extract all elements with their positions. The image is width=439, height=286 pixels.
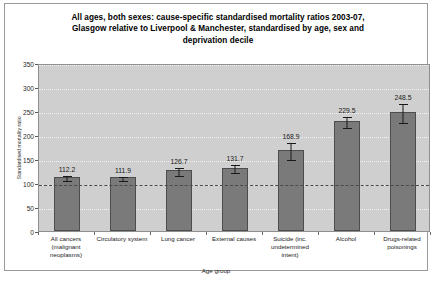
y-axis-tick-label: 100 [12, 181, 34, 188]
x-axis-category-label-line: Alcohol [318, 235, 374, 243]
x-axis-tick-mark [430, 232, 431, 235]
error-bar-cap-top [231, 165, 240, 166]
y-axis-tick-label: 200 [12, 133, 34, 140]
error-bar-cap-top [63, 176, 72, 177]
bar-group [319, 65, 375, 231]
x-axis-category-label-line: External causes [206, 235, 262, 243]
x-axis-category-label-line: Suicide (inc. [262, 235, 318, 243]
error-bar [403, 104, 404, 124]
y-axis-tick-mark [35, 136, 38, 137]
bar-group [39, 65, 95, 231]
bar[interactable] [334, 121, 360, 231]
error-bar-cap-top [343, 117, 352, 118]
x-axis-title: Age group [5, 267, 427, 274]
error-bar [235, 165, 236, 174]
x-axis-category-label: Circulatory system [94, 235, 150, 243]
error-bar-cap-bottom [287, 160, 296, 161]
error-bar [179, 168, 180, 177]
x-axis-category-label-line: undetermined intent) [262, 243, 318, 259]
error-bar-cap-bottom [343, 128, 352, 129]
x-axis-category-label-line: Circulatory system [94, 235, 150, 243]
y-axis-tick-mark [35, 184, 38, 185]
x-axis-category-label-line: (malignant [38, 243, 94, 251]
x-axis-category-label: Alcohol [318, 235, 374, 243]
y-axis-tick-mark [35, 88, 38, 89]
error-bar-cap-top [399, 104, 408, 105]
y-axis-tick-mark [35, 64, 38, 65]
x-axis-category-label-line: All cancers [38, 235, 94, 243]
error-bar-cap-bottom [175, 176, 184, 177]
reference-line-100 [39, 185, 429, 186]
error-bar-cap-top [175, 168, 184, 169]
bar-value-label: 131.7 [226, 155, 243, 162]
y-axis-tick-mark [35, 208, 38, 209]
bar-value-label: 112.2 [59, 166, 76, 173]
plot-area: 112.2111.9126.7131.7168.9229.5248.5 [38, 64, 430, 232]
y-axis-tick-mark [35, 160, 38, 161]
bar[interactable] [278, 150, 304, 231]
error-bar [291, 143, 292, 161]
y-axis-title: Standardised mortality ratio [16, 88, 22, 208]
error-bar-cap-bottom [119, 181, 128, 182]
x-axis-category-label: Drugs-relatedpoisonings [374, 235, 430, 251]
y-axis-tick-label: 250 [12, 109, 34, 116]
error-bar-cap-top [119, 177, 128, 178]
x-axis-category-label-line: poisonings [374, 243, 430, 251]
x-axis-category-label-line: Lung cancer [150, 235, 206, 243]
error-bar-cap-bottom [399, 123, 408, 124]
bar-group [207, 65, 263, 231]
bar[interactable] [166, 170, 192, 231]
error-bar-cap-top [287, 143, 296, 144]
bar-group [375, 65, 431, 231]
error-bar [67, 176, 68, 182]
bar[interactable] [222, 168, 248, 231]
x-axis-category-label-line: Drugs-related [374, 235, 430, 243]
chart-title-line-3: deprivation decile [35, 35, 401, 46]
chart-title: All ages, both sexes: cause-specific sta… [35, 12, 401, 46]
bar-value-label: 111.9 [115, 167, 131, 174]
x-axis-category-label: All cancers(malignantneoplasms) [38, 235, 94, 260]
y-axis-tick-label: 150 [12, 157, 34, 164]
bar-value-label: 248.5 [394, 94, 411, 101]
bar[interactable] [390, 112, 416, 231]
y-axis-tick-mark [35, 112, 38, 113]
x-axis-category-label: External causes [206, 235, 262, 243]
error-bar [123, 177, 124, 182]
chart-title-line-1: All ages, both sexes: cause-specific sta… [35, 12, 401, 23]
chart-title-line-2: Glasgow relative to Liverpool & Manchest… [35, 23, 401, 34]
bar-group [95, 65, 151, 231]
chart-frame: All ages, both sexes: cause-specific sta… [4, 3, 428, 271]
x-axis-category-label: Lung cancer [150, 235, 206, 243]
bar-value-label: 229.5 [338, 107, 355, 114]
bar-value-label: 126.7 [170, 158, 187, 165]
bar-group [151, 65, 207, 231]
bar-value-label: 168.9 [282, 133, 299, 140]
y-axis-tick-label: 350 [12, 61, 34, 68]
x-axis-category-label-line: neoplasms) [38, 251, 94, 259]
y-axis-tick-label: 300 [12, 85, 34, 92]
error-bar-cap-bottom [63, 181, 72, 182]
y-axis-tick-label: 50 [12, 205, 34, 212]
y-axis-tick-label: 0 [12, 229, 34, 236]
error-bar [347, 117, 348, 129]
x-axis-category-label: Suicide (inc.undetermined intent) [262, 235, 318, 260]
error-bar-cap-bottom [231, 173, 240, 174]
